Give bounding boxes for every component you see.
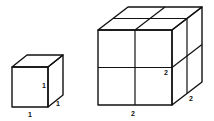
- large-cube-height-label: 2: [164, 69, 168, 76]
- large-cube: 2 2 2: [98, 7, 202, 117]
- small-cube: 1 1 1: [12, 55, 63, 118]
- cube-diagram: 1 1 1 2 2 2: [0, 0, 214, 121]
- small-cube-height-label: 1: [42, 82, 46, 89]
- small-cube-width-label: 1: [28, 111, 32, 118]
- large-cube-depth-label: 2: [189, 95, 193, 102]
- small-cube-depth-label: 1: [56, 100, 60, 107]
- large-cube-width-label: 2: [131, 110, 135, 117]
